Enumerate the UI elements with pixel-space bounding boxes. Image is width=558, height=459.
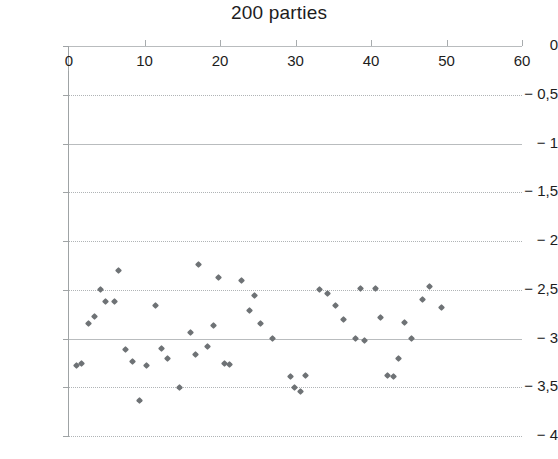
chart-title: 200 parties	[0, 2, 558, 24]
data-point	[408, 335, 415, 342]
data-point	[352, 335, 359, 342]
data-point	[332, 302, 339, 309]
gridline-y	[69, 144, 522, 145]
data-point	[357, 285, 364, 292]
x-axis-tick	[522, 40, 523, 46]
data-point	[372, 285, 379, 292]
data-point	[85, 320, 92, 327]
data-point	[122, 346, 129, 353]
data-point	[195, 261, 202, 268]
data-point	[401, 319, 408, 326]
data-point	[158, 345, 165, 352]
data-point	[204, 343, 211, 350]
data-point	[269, 335, 276, 342]
data-point	[324, 290, 331, 297]
gridline-y	[69, 46, 522, 47]
plot-area	[69, 46, 522, 436]
gridline-y	[69, 339, 522, 340]
data-point	[226, 361, 233, 368]
data-point	[152, 302, 159, 309]
data-point	[210, 322, 217, 329]
data-point	[129, 358, 136, 365]
data-point	[395, 355, 402, 362]
data-point	[78, 360, 85, 367]
data-point	[187, 329, 194, 336]
data-point	[390, 373, 397, 380]
data-point	[115, 267, 122, 274]
data-point	[192, 351, 199, 358]
data-point	[287, 373, 294, 380]
gridline-y	[69, 192, 522, 193]
data-point	[377, 314, 384, 321]
data-point	[419, 296, 426, 303]
data-point	[136, 397, 143, 404]
gridline-y	[69, 241, 522, 242]
data-point	[302, 372, 309, 379]
data-point	[246, 307, 253, 314]
data-point	[296, 388, 303, 395]
data-point	[142, 362, 149, 369]
gridline-y	[69, 290, 522, 291]
scatter-chart: 200 parties 0− 0,5− 1− 1,5− 2− 2,5− 3− 3…	[0, 0, 558, 459]
data-point	[257, 320, 264, 327]
gridline-y	[69, 436, 522, 437]
data-point	[238, 276, 245, 283]
data-point	[340, 315, 347, 322]
data-point	[251, 292, 258, 299]
data-point	[111, 298, 118, 305]
data-point	[97, 286, 104, 293]
gridline-y	[69, 95, 522, 96]
data-point	[102, 298, 109, 305]
data-point	[438, 304, 445, 311]
data-point	[215, 274, 222, 281]
data-point	[176, 384, 183, 391]
data-point	[91, 313, 98, 320]
data-point	[164, 354, 171, 361]
data-point	[316, 286, 323, 293]
